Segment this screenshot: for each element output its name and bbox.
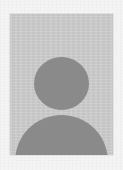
scanned-page: · · · · · · · · · · · · · · · · · · · · …	[0, 0, 123, 170]
bleed-through-line-2: · · · · · · · · · · ·	[24, 7, 116, 13]
avatar-body-icon	[15, 115, 108, 155]
photo-placeholder-frame[interactable]	[10, 14, 113, 155]
bleed-through-text-bottom: · · · · · · · · · · · · · · · ·	[12, 157, 116, 169]
bleed-through-text-top: · · · · · · · · · · · · · · · · · · · · …	[24, 1, 116, 13]
avatar-head-icon	[34, 57, 89, 110]
